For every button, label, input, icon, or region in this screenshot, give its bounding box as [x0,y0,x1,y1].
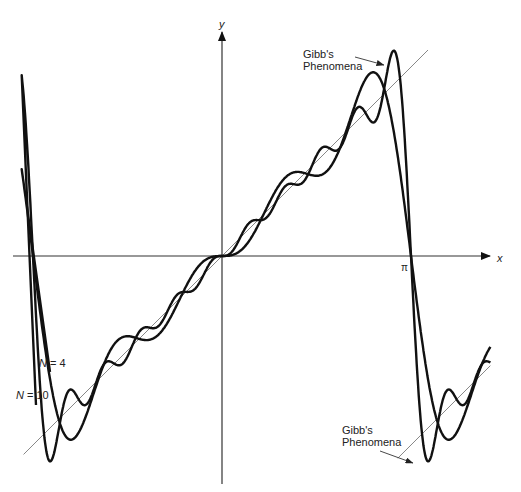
fourier-series-diagram [0,0,521,492]
legend-n-4-value: = 4 [47,357,66,369]
legend-n-10-value: = 10 [24,389,49,401]
gibbs-bottom-label-line2: Phenomena [342,436,401,448]
x-axis-label: x [497,252,503,264]
legend-n-4: N = 4 [39,357,66,369]
y-axis-label: y [219,18,225,30]
legend-n-10: N = 10 [16,389,49,401]
reference-line-y-equals-x [24,50,428,454]
gibbs-top-label-line1: Gibb's [303,48,334,60]
pi-tick-label: π [401,262,408,274]
gibbs-bottom-arrow [380,451,413,463]
gibbs-top-label-line2: Phenomena [303,60,362,72]
gibbs-bottom-label-line1: Gibb's [342,424,373,436]
